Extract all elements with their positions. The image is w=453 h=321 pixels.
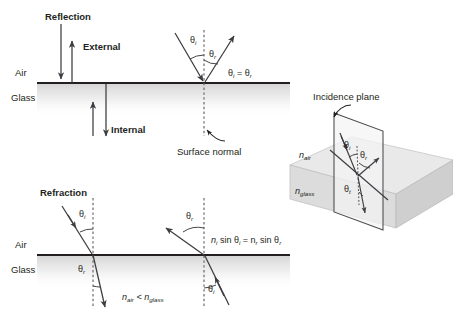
reflection-heading: Reflection [45,11,91,22]
refraction-glass-label: Glass [11,264,36,275]
refraction-glass-medium-fill [37,255,290,289]
reflection-glass-medium-fill [37,83,290,117]
internal-label: Internal [111,124,145,135]
incidence-plane-quad [334,113,383,230]
external-label: External [83,41,121,52]
refraction-heading: Refraction [40,187,87,198]
law-of-reflection-equation: θi = θr [228,68,253,79]
surface-normal-label: Surface normal [177,146,241,157]
refraction-air-label: Air [15,239,27,250]
reflection-glass-label: Glass [11,92,36,103]
incidence-plane-heading: Incidence plane [313,91,380,102]
optics-reflection-refraction-figure: Reflection Air Glass External Internal θ… [0,0,453,321]
snells-law-equation: ni sin θi = nr sin θr [211,235,282,246]
reflection-air-label: Air [15,67,27,78]
